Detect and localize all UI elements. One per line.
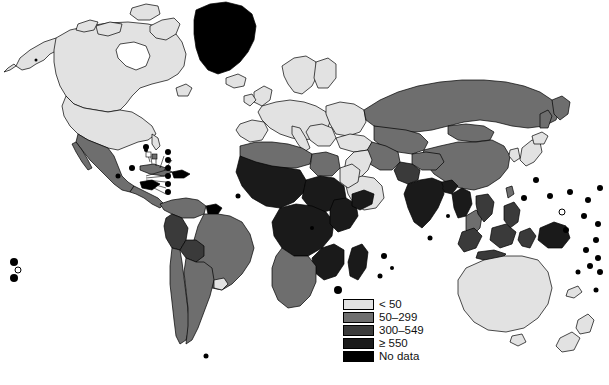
island-dot [597,269,603,275]
island-dot [428,236,433,241]
legend-label-4: No data [379,350,419,362]
island-dot-open [15,267,21,273]
island-dot [116,174,121,179]
island-dot-pacific-left [10,274,18,282]
legend-item-3: ≥ 550 [343,337,447,349]
legend-item-0: < 50 [343,298,447,310]
island-callout-dot [165,181,171,187]
legend-swatch-0 [343,299,374,310]
island-dot [593,237,599,243]
legend-item-1: 50–299 [343,311,447,323]
island-dot [597,185,603,191]
island-dot [381,253,387,259]
legend-swatch-3 [343,338,374,349]
island-dot [390,266,394,270]
island-callout-dot [165,189,171,195]
world-choropleth-figure: .c0 { fill:#e2e2e2; stroke:#000; stroke-… [0,0,609,385]
island-dot [563,227,569,233]
island-dot [594,288,599,293]
legend-label-1: 50–299 [379,311,417,323]
island-dot [585,197,591,203]
island-dot [547,193,553,199]
island-dot [587,263,593,269]
island-callout-box [152,154,157,159]
island-dot [595,221,601,227]
island-dot [310,226,314,230]
island-dot-cape-verde [236,194,241,199]
island-dot [521,195,527,201]
region-libya-algeria [310,152,340,176]
island-dot [581,213,587,219]
island-dot [533,177,539,183]
legend-item-4: No data [343,350,447,362]
island-dot [129,165,135,171]
falkland-islands-dot [204,354,209,359]
legend-swatch-2 [343,325,374,336]
island-dot [576,270,581,275]
legend-label-3: ≥ 550 [379,337,408,349]
island-dot [583,247,589,253]
island-dot-pacific-left [10,258,18,266]
legend-label-2: 300–549 [379,324,424,336]
island-callout-dot [165,173,171,179]
island-dot [446,214,450,218]
legend-swatch-4 [343,351,374,362]
island-dot [595,255,601,261]
world-map-svg: .c0 { fill:#e2e2e2; stroke:#000; stroke-… [0,0,609,385]
island-dot [35,59,38,62]
island-dot [378,274,383,279]
legend-swatch-1 [343,312,374,323]
island-dot [334,286,342,294]
island-dot [567,189,573,195]
island-callout-box [146,152,151,157]
legend-item-2: 300–549 [343,324,447,336]
island-callout-dot [165,149,171,155]
legend-label-0: < 50 [379,298,402,310]
island-dot-open [559,209,565,215]
island-callout-dot [165,165,171,171]
island-callout-dot [165,157,171,163]
island-callout-dot [143,144,149,150]
map-legend: < 50 50–299 300–549 ≥ 550 No data [343,298,447,362]
